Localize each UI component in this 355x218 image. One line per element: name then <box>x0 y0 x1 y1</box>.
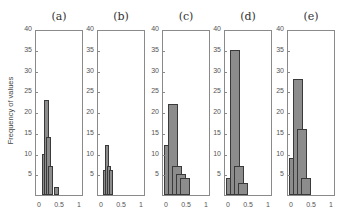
x-tick-label: 0.5 <box>111 201 131 208</box>
y-tick-label: 30 <box>207 67 221 74</box>
y-tick-label: 25 <box>80 87 94 94</box>
y-tick-mark <box>163 155 165 156</box>
y-tick-mark <box>98 72 100 73</box>
y-tick-mark <box>98 155 100 156</box>
y-tick-label: 10 <box>207 150 221 157</box>
y-tick-mark <box>36 72 38 73</box>
y-tick-mark <box>163 134 165 135</box>
x-tick-label: 1 <box>131 201 151 208</box>
y-tick-label: 20 <box>80 108 94 115</box>
y-tick-mark <box>36 30 38 31</box>
y-tick-mark <box>36 92 38 93</box>
histogram-bar <box>109 170 113 195</box>
histogram-panel <box>35 30 83 196</box>
panel-title: (a) <box>35 10 83 23</box>
y-tick-label: 40 <box>80 25 94 32</box>
y-tick-mark <box>288 134 290 135</box>
histogram-bar <box>54 187 59 195</box>
y-tick-mark <box>36 51 38 52</box>
y-tick-mark <box>163 113 165 114</box>
histogram-bar <box>238 183 248 195</box>
y-tick-mark <box>163 175 165 176</box>
y-tick-mark <box>36 134 38 135</box>
y-tick-label: 10 <box>80 150 94 157</box>
y-tick-mark <box>225 30 227 31</box>
y-tick-mark <box>288 92 290 93</box>
y-tick-mark <box>98 134 100 135</box>
y-tick-mark <box>288 72 290 73</box>
x-tick-label: 0 <box>156 201 176 208</box>
x-tick-label: 1 <box>258 201 278 208</box>
x-tick-label: 0 <box>281 201 301 208</box>
panel-title: (c) <box>162 10 210 23</box>
y-tick-mark <box>225 72 227 73</box>
y-tick-label: 35 <box>18 46 32 53</box>
histogram-panel <box>97 30 145 196</box>
y-tick-mark <box>288 113 290 114</box>
y-tick-mark <box>225 92 227 93</box>
y-tick-label: 30 <box>145 67 159 74</box>
x-tick-label: 1 <box>321 201 341 208</box>
y-tick-mark <box>36 113 38 114</box>
x-tick-label: 1 <box>69 201 89 208</box>
x-tick-label: 0.5 <box>238 201 258 208</box>
y-tick-label: 35 <box>270 46 284 53</box>
histogram-bar <box>301 178 311 195</box>
y-tick-label: 5 <box>270 170 284 177</box>
y-tick-mark <box>163 51 165 52</box>
y-tick-label: 25 <box>145 87 159 94</box>
panel-title: (d) <box>224 10 272 23</box>
y-tick-mark <box>225 51 227 52</box>
histogram-panel <box>287 30 335 196</box>
y-tick-label: 5 <box>18 170 32 177</box>
y-tick-mark <box>225 113 227 114</box>
y-tick-label: 25 <box>18 87 32 94</box>
y-tick-mark <box>98 51 100 52</box>
y-tick-mark <box>98 113 100 114</box>
y-tick-label: 35 <box>207 46 221 53</box>
y-tick-mark <box>163 72 165 73</box>
y-tick-label: 40 <box>18 25 32 32</box>
y-tick-label: 15 <box>270 129 284 136</box>
histogram-panel <box>162 30 210 196</box>
y-tick-mark <box>98 92 100 93</box>
y-tick-mark <box>288 175 290 176</box>
y-tick-label: 10 <box>18 150 32 157</box>
y-tick-label: 20 <box>270 108 284 115</box>
panel-title: (b) <box>97 10 145 23</box>
y-tick-mark <box>163 92 165 93</box>
y-tick-label: 30 <box>270 67 284 74</box>
y-tick-mark <box>225 175 227 176</box>
y-axis-label: Frequency of values <box>6 71 15 151</box>
y-tick-mark <box>98 30 100 31</box>
x-tick-label: 0 <box>29 201 49 208</box>
y-tick-label: 40 <box>207 25 221 32</box>
histogram-bar <box>180 178 190 195</box>
x-tick-label: 0.5 <box>301 201 321 208</box>
y-tick-label: 20 <box>207 108 221 115</box>
y-tick-label: 40 <box>145 25 159 32</box>
y-tick-mark <box>36 175 38 176</box>
y-tick-mark <box>163 30 165 31</box>
y-tick-label: 35 <box>145 46 159 53</box>
x-tick-label: 0.5 <box>176 201 196 208</box>
x-tick-label: 1 <box>196 201 216 208</box>
y-tick-mark <box>288 155 290 156</box>
y-tick-mark <box>288 30 290 31</box>
y-tick-label: 20 <box>145 108 159 115</box>
y-tick-mark <box>98 175 100 176</box>
y-tick-label: 15 <box>207 129 221 136</box>
y-tick-label: 35 <box>80 46 94 53</box>
y-tick-label: 5 <box>80 170 94 177</box>
y-tick-label: 10 <box>145 150 159 157</box>
y-tick-label: 40 <box>270 25 284 32</box>
histogram-bar <box>48 166 53 195</box>
y-tick-label: 30 <box>18 67 32 74</box>
y-tick-label: 15 <box>145 129 159 136</box>
y-tick-label: 5 <box>207 170 221 177</box>
histogram-panel <box>224 30 272 196</box>
y-tick-label: 20 <box>18 108 32 115</box>
x-tick-label: 0 <box>91 201 111 208</box>
y-tick-mark <box>225 134 227 135</box>
y-tick-mark <box>288 51 290 52</box>
